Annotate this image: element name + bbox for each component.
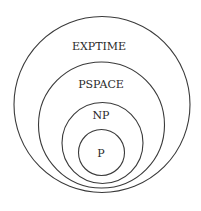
exptime-label: EXPTIME: [72, 40, 126, 53]
pspace-label: PSPACE: [78, 78, 124, 91]
np-label: NP: [92, 109, 110, 122]
complexity-venn-diagram: EXPTIME PSPACE NP P: [0, 0, 201, 211]
p-label: P: [97, 147, 105, 160]
